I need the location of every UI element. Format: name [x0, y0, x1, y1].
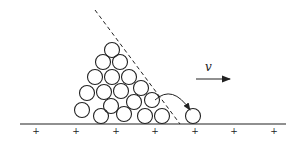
roll-path-arrow-icon: [155, 94, 190, 110]
sphere: [75, 103, 90, 118]
ground-marker: +: [72, 126, 80, 136]
sphere: [186, 109, 201, 124]
sphere: [80, 86, 95, 101]
ground-marker: +: [151, 126, 159, 136]
ground-marker: +: [191, 126, 199, 136]
ground-markers: +++++++: [32, 126, 278, 136]
sphere: [113, 55, 128, 70]
ground-marker: +: [112, 126, 120, 136]
sphere: [94, 109, 109, 124]
sphere-pile: [75, 43, 201, 124]
sphere: [114, 84, 129, 99]
velocity-label: v: [205, 60, 212, 74]
ground-marker: +: [32, 126, 40, 136]
sphere: [145, 93, 160, 108]
sphere: [155, 109, 170, 124]
sphere: [96, 55, 111, 70]
sphere: [127, 95, 142, 110]
sphere-pile-diagram: +++++++: [0, 0, 300, 141]
ground-marker: +: [230, 126, 238, 136]
ground-marker: +: [270, 126, 278, 136]
sphere: [88, 70, 103, 85]
sphere: [117, 107, 132, 122]
sphere: [104, 99, 119, 114]
sphere: [105, 70, 120, 85]
repose-angle-line: [95, 10, 180, 124]
sphere: [97, 85, 112, 100]
sphere: [122, 70, 137, 85]
sphere: [134, 81, 149, 96]
sphere: [138, 109, 153, 124]
